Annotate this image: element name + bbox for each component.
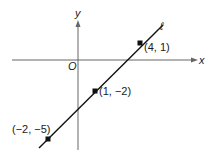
line-label: ℓ xyxy=(159,20,164,32)
point-neg2-neg5 xyxy=(46,137,51,142)
point-4-1 xyxy=(138,41,143,46)
origin-label: O xyxy=(68,60,77,72)
point-1-neg2 xyxy=(93,89,98,94)
point-label-neg2-neg5: (−2, −5) xyxy=(12,123,51,135)
point-label-1-neg2: (1, −2) xyxy=(99,85,131,97)
x-axis-label: x xyxy=(198,54,205,66)
y-axis-arrow-icon xyxy=(76,20,81,27)
coordinate-diagram: y x O ℓ (4, 1) (1, −2) (−2, −5) xyxy=(0,0,214,155)
y-axis-label: y xyxy=(74,7,82,19)
point-label-4-1: (4, 1) xyxy=(144,41,170,53)
x-axis-arrow-icon xyxy=(191,58,198,63)
